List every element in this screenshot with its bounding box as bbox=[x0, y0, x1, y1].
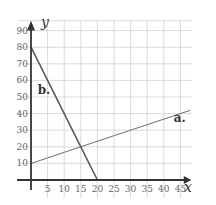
x-tick-label: 10 bbox=[58, 184, 70, 194]
y-tick-label: 50 bbox=[17, 92, 29, 102]
grid bbox=[19, 21, 192, 198]
y-tick-label: 40 bbox=[17, 109, 29, 119]
y-axis-label: y bbox=[40, 14, 50, 30]
y-tick-label: 20 bbox=[17, 142, 29, 152]
x-tick-label: 20 bbox=[92, 184, 104, 194]
x-axis-label: x bbox=[184, 179, 192, 195]
x-tick-label: 15 bbox=[75, 184, 87, 194]
x-tick-label: 25 bbox=[108, 184, 120, 194]
axes bbox=[17, 21, 191, 190]
y-tick-label: 30 bbox=[17, 125, 29, 135]
x-tick-label: 35 bbox=[141, 184, 153, 194]
y-tick-label: 90 bbox=[17, 26, 29, 36]
line-chart: 51015202530354045102030405060708090xya.b… bbox=[0, 0, 216, 205]
y-tick-label: 10 bbox=[17, 158, 29, 168]
series-label-b: b. bbox=[38, 83, 51, 97]
y-tick-label: 80 bbox=[17, 42, 29, 52]
x-tick-label: 5 bbox=[45, 184, 51, 194]
series-line-a bbox=[31, 110, 190, 163]
x-tick-label: 40 bbox=[158, 184, 170, 194]
series-label-a: a. bbox=[174, 111, 186, 125]
y-tick-label: 70 bbox=[17, 59, 29, 69]
x-tick-label: 30 bbox=[125, 184, 137, 194]
y-tick-label: 60 bbox=[17, 75, 29, 85]
y-axis-arrow-icon bbox=[27, 21, 35, 31]
labels: 51015202530354045102030405060708090xya.b… bbox=[17, 14, 193, 195]
